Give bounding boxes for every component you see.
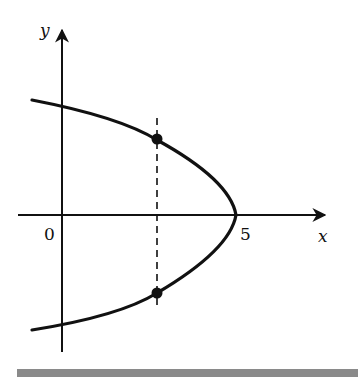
bottom-bar bbox=[17, 369, 358, 377]
x-tick-label-5: 5 bbox=[240, 224, 251, 244]
origin-label: 0 bbox=[44, 224, 55, 244]
lower-point bbox=[152, 288, 163, 299]
x-axis-label: x bbox=[318, 226, 328, 246]
y-axis-label: y bbox=[39, 20, 50, 40]
parabola-diagram: y 0 5 x bbox=[0, 0, 358, 382]
upper-point bbox=[152, 134, 163, 145]
